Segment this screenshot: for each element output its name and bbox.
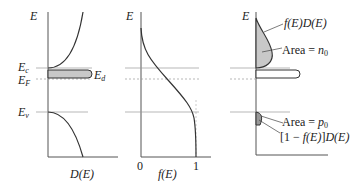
- svg-text:Area = n0: Area = n0: [282, 43, 328, 58]
- carrier-panel: E f(E)D(E) Area = n0 Area = p0 [1 − f(E)…: [230, 9, 349, 155]
- svg-text:[1 − f(E)]D(E): [1 − f(E)]D(E): [280, 130, 349, 144]
- svg-text:Ed: Ed: [93, 68, 106, 83]
- svg-text:Ev: Ev: [17, 105, 29, 120]
- dos-x-label: D(E): [69, 167, 94, 181]
- svg-text:Area = p0: Area = p0: [282, 115, 328, 130]
- svg-text:f(E)D(E): f(E)D(E): [284, 16, 327, 30]
- dos-y-label: E: [29, 9, 38, 23]
- svg-text:f(E): f(E): [158, 167, 177, 181]
- svg-text:E: E: [241, 9, 250, 23]
- svg-text:1: 1: [193, 159, 199, 173]
- svg-text:0: 0: [137, 159, 143, 173]
- svg-text:E: E: [125, 9, 134, 23]
- semiconductor-diagram: E Ec EF Ed Ev D(E) E 0 1 f(E) E f(E)D(E): [0, 0, 364, 185]
- dos-panel: E Ec EF Ed Ev D(E): [17, 9, 118, 181]
- fermi-panel: E 0 1 f(E): [125, 9, 211, 181]
- svg-text:EF: EF: [17, 73, 30, 88]
